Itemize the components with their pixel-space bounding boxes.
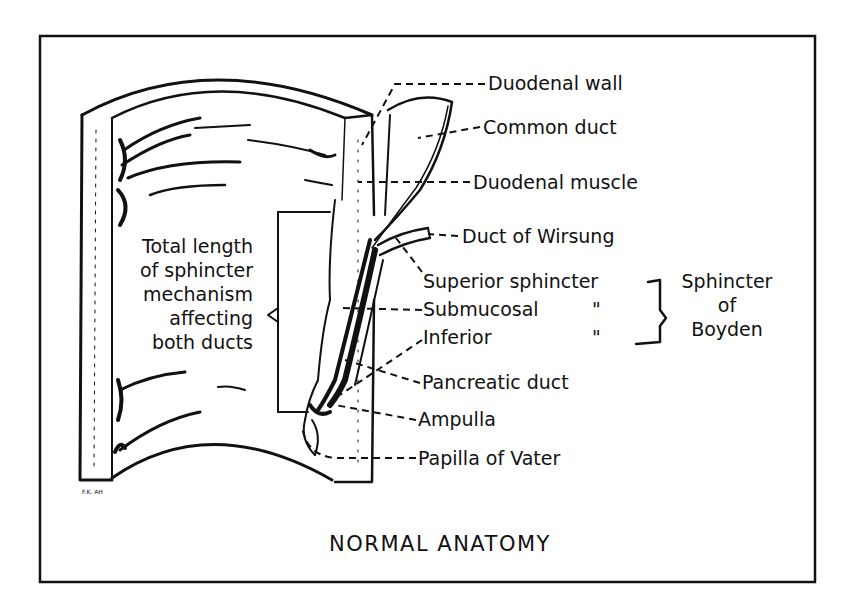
sphincter-bracket xyxy=(636,280,666,344)
label-duodenal-wall: Duodenal wall xyxy=(488,72,623,94)
label-superior-sphincter: Superior sphincter xyxy=(423,270,598,292)
total-length-brace xyxy=(268,212,278,412)
leader-common-duct xyxy=(418,127,480,138)
label-inferior-ditto: " xyxy=(592,326,601,348)
label-sphincter-of-boyden-line1: Sphincter xyxy=(682,270,773,292)
note-total-length-line1: Total length xyxy=(141,235,253,257)
total-length-bracket xyxy=(278,212,330,412)
artist-initials: F.K. AH xyxy=(82,488,103,495)
label-submucosal-ditto: " xyxy=(592,298,601,320)
leader-papilla xyxy=(302,425,416,458)
figure-title: NORMAL ANATOMY xyxy=(329,532,551,556)
label-duodenal-muscle: Duodenal muscle xyxy=(473,171,638,193)
note-total-length-line4: affecting xyxy=(169,307,253,329)
duodenum-illustration xyxy=(80,80,374,482)
label-pancreatic-duct: Pancreatic duct xyxy=(422,371,569,393)
label-ampulla: Ampulla xyxy=(418,408,496,430)
leader-duct-of-wirsung xyxy=(428,234,458,236)
label-common-duct: Common duct xyxy=(483,116,617,138)
label-duct-of-wirsung: Duct of Wirsung xyxy=(462,225,614,247)
label-sphincter-of-boyden-line3: Boyden xyxy=(691,318,763,340)
note-total-length-line3: mechanism xyxy=(143,283,253,305)
leader-duodenal-wall xyxy=(362,84,485,145)
label-sphincter-of-boyden-line2: of xyxy=(718,294,738,316)
anatomy-diagram: Duodenal wall Common duct Duodenal muscl… xyxy=(0,0,845,607)
label-inferior: Inferior xyxy=(423,326,492,348)
label-submucosal: Submucosal xyxy=(423,298,539,320)
label-papilla-of-vater: Papilla of Vater xyxy=(418,447,560,469)
note-total-length-line5: both ducts xyxy=(152,331,253,353)
note-total-length-line2: of sphincter xyxy=(140,259,253,281)
leader-ampulla xyxy=(335,405,416,420)
